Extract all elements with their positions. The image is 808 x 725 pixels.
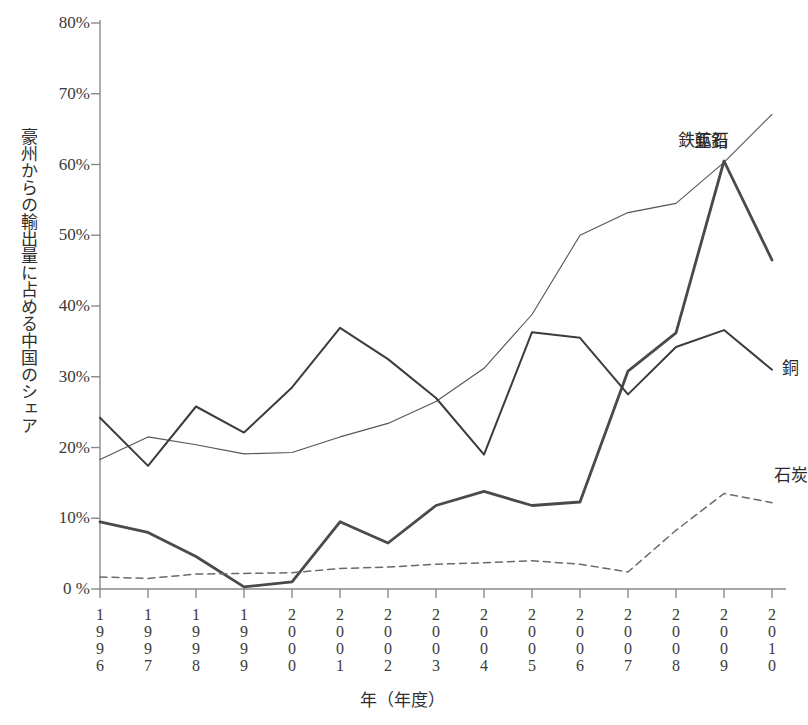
x-axis-title: 年（年度） — [0, 686, 804, 711]
series-label: 銅 — [782, 360, 799, 377]
axis-ticks — [91, 23, 772, 598]
series-label: 石炭 — [774, 467, 808, 484]
series-lines — [100, 114, 772, 587]
series-line — [100, 114, 772, 459]
series-line — [100, 161, 772, 587]
series-label: 亜鉛 — [694, 133, 728, 150]
